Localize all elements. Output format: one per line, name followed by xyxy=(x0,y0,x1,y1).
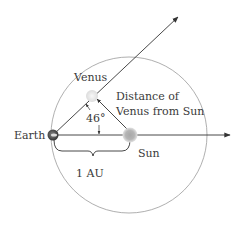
sun-label: Sun xyxy=(138,147,160,160)
sun-body xyxy=(123,128,138,143)
angle-label: 46° xyxy=(86,112,106,125)
au-label: 1 AU xyxy=(76,167,104,180)
venus-label: Venus xyxy=(73,71,108,84)
venus-body xyxy=(86,90,98,102)
au-brace xyxy=(54,140,130,156)
earth-label: Earth xyxy=(14,129,45,142)
distance-label-line1: Distance of xyxy=(116,90,180,103)
earth-cloud-detail xyxy=(51,134,57,137)
diagram-canvas: Venus Distance of Venus from Sun 46° Ear… xyxy=(0,0,242,227)
distance-label-line2: Venus from Sun xyxy=(115,105,204,118)
